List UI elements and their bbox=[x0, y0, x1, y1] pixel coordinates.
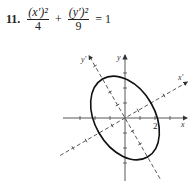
tick-label-2: 2 bbox=[153, 121, 158, 131]
y-prime-label: y′ bbox=[80, 55, 87, 64]
rotated-axes bbox=[24, 20, 193, 188]
x-axis-label: x bbox=[180, 120, 185, 129]
x-prime-axis bbox=[60, 82, 187, 156]
y-prime-axis bbox=[89, 56, 160, 179]
ellipse-figure: x y x′ y′ 2 bbox=[0, 0, 193, 188]
x-prime-label: x′ bbox=[177, 73, 184, 82]
y-axis-label: y bbox=[116, 53, 121, 62]
